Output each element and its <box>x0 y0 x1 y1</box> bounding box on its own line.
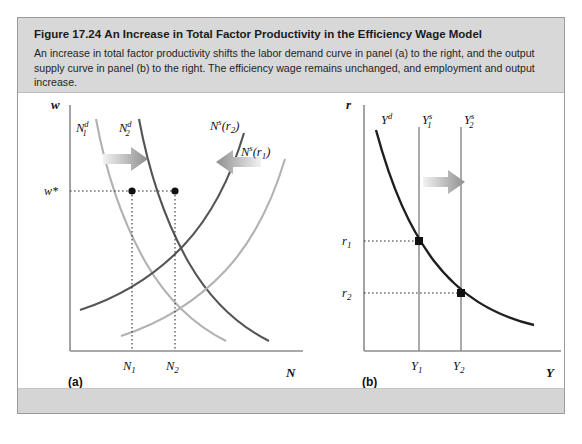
curve-output-demand <box>376 130 534 325</box>
panel-b-chart: r Y r1 r2 Y1 Y2 Yd Ys1 Ys2 (b) <box>306 93 564 390</box>
panel-a: w N w* N1 N2 Nd1 Nd2 Ns(r2) Ns(r1) (a) <box>18 93 308 390</box>
panel-a-x-axis-label: N <box>285 365 296 380</box>
panel-a-equilibrium-1-marker <box>128 187 135 194</box>
panel-b-y-axis-label: r <box>346 97 352 112</box>
curve-label-labor-supply-r2: Ns(r2) <box>209 117 239 135</box>
panel-a-y-tick-w-star: w* <box>44 184 58 198</box>
curve-label-labor-demand-2: Nd2 <box>118 119 132 138</box>
curve-labor-demand-1 <box>96 119 226 341</box>
panel-b-x-tick-y2: Y2 <box>453 359 465 375</box>
figure-root: Figure 17.24 An Increase in Total Factor… <box>0 0 582 444</box>
figure-title-line: Figure 17.24 An Increase in Total Factor… <box>34 27 550 42</box>
figure-caption-text: An increase in total factor productivity… <box>34 46 550 90</box>
curve-label-labor-supply-r1: Ns(r1) <box>240 143 270 161</box>
panel-b-label: (b) <box>362 375 377 389</box>
page-title: An Increase in Total Factor Productivity… <box>104 28 482 40</box>
panel-a-equilibrium-2-marker <box>171 187 178 194</box>
plot-area: w N w* N1 N2 Nd1 Nd2 Ns(r2) Ns(r1) (a) <box>18 93 564 390</box>
panel-b-x-tick-y1: Y1 <box>411 359 422 375</box>
panel-b-equilibrium-1-marker <box>415 237 423 245</box>
figure-box: Figure 17.24 An Increase in Total Factor… <box>17 17 565 414</box>
panel-a-x-tick-n1: N1 <box>122 359 136 375</box>
panel-a-x-tick-n2: N2 <box>165 359 179 375</box>
curve-label-output-supply-1: Ys1 <box>422 111 433 130</box>
curve-label-labor-demand-1: Nd1 <box>75 119 89 138</box>
figure-footer-band <box>18 388 564 413</box>
panel-b: r Y r1 r2 Y1 Y2 Yd Ys1 Ys2 (b) <box>306 93 564 390</box>
panel-a-label: (a) <box>68 375 83 389</box>
panel-b-x-axis-label: Y <box>546 365 555 380</box>
panel-b-y-tick-r1: r1 <box>342 234 351 250</box>
panel-a-y-axis-label: w <box>51 97 60 112</box>
panel-a-demand-shift-arrow <box>103 147 148 171</box>
panel-b-output-supply-shift-arrow <box>423 170 465 194</box>
figure-number: Figure 17.24 <box>34 28 101 40</box>
figure-caption-band: Figure 17.24 An Increase in Total Factor… <box>18 18 564 93</box>
curve-label-output-supply-2: Ys2 <box>464 111 475 130</box>
panel-b-equilibrium-2-marker <box>457 289 465 297</box>
panel-a-chart: w N w* N1 N2 Nd1 Nd2 Ns(r2) Ns(r1) (a) <box>18 93 308 390</box>
panel-b-y-tick-r2: r2 <box>342 286 352 302</box>
curve-labor-supply-r1 <box>121 159 285 336</box>
curve-label-output-demand: Yd <box>381 111 393 127</box>
